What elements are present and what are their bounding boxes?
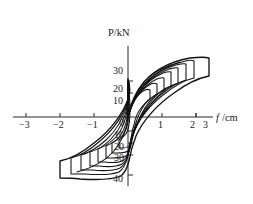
y-tick-label-0: 0 [119,117,124,128]
hysteresis-figure: P/kN f /cm −3 −2 −1 1 2 3 30 20 10 0 10 … [0,0,253,204]
x-tick-label--1: −1 [87,119,98,130]
y-tick-label-30: 30 [113,65,123,76]
y-tick-label--10: 10 [114,129,124,140]
hysteresis-loop-8 [60,57,209,179]
x-tick-label-1: 1 [158,119,163,130]
y-tick-label--30: 30 [114,152,124,163]
y-tick-label--40: 40 [113,173,123,184]
x-tick-label--2: −2 [53,119,64,130]
x-axis-ticks [26,113,196,117]
x-tick-label-2: 2 [190,119,195,130]
x-axis-title-symbol: f [216,112,221,123]
y-tick-label--20: 20 [114,141,124,152]
x-axis-title-unit: /cm [222,112,238,123]
x-tick-label-3: 3 [203,119,208,130]
y-tick-label-20: 20 [113,83,123,94]
y-axis-title: P/kN [108,27,130,38]
y-tick-label-10: 10 [113,95,123,106]
x-tick-label--3: −3 [19,119,30,130]
